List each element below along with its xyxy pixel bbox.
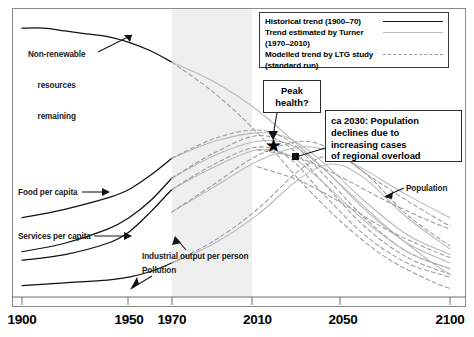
x-tick-label-1970: 1970 (157, 312, 186, 327)
callout-decline-line3: increasing cases (331, 139, 456, 151)
legend-row-turner-years: (1970–2010) (265, 38, 443, 49)
label-population: Population (406, 184, 447, 194)
legend-label-historical: Historical trend (1900–70) (265, 16, 361, 27)
label-nonrenewable-line1: Non-renewable (28, 50, 85, 60)
callout-peak-health-line2: health? (264, 97, 320, 109)
label-food-per-capita: Food per capita (18, 188, 77, 198)
x-tick-label-2100: 2100 (436, 312, 465, 327)
callout-decline-line2: declines due to (331, 127, 456, 139)
callout-peak-health-line1: Peak (264, 85, 320, 97)
peak-health-star-icon: ★ (265, 135, 282, 156)
label-nonrenewable-line3: remaining (28, 112, 85, 122)
legend-label-ltg: Modelled trend by LTG study (265, 49, 373, 60)
legend: Historical trend (1900–70) Trend estimat… (259, 12, 449, 68)
arrowhead-food (102, 188, 110, 196)
legend-row-ltg: Modelled trend by LTG study (265, 49, 443, 60)
x-tick-label-1900: 1900 (8, 312, 37, 327)
callout-decline-line1: ca 2030: Population (331, 115, 456, 127)
callout-peak-health: Peak health? (263, 80, 321, 113)
x-tick-label-1950: 1950 (115, 312, 144, 327)
label-nonrenewable-line2: resources (28, 81, 85, 91)
label-nonrenewable-resources: Non-renewable resources remaining (28, 30, 85, 142)
marker-decline-square (292, 153, 299, 160)
arrowhead-pollution (130, 277, 139, 290)
callout-population-decline: ca 2030: Population declines due to incr… (325, 110, 462, 162)
chart-root: ★ Historical trend (1900–70) Trend estim… (0, 0, 474, 337)
legend-row-ltg-run: (standard run) (265, 60, 443, 71)
legend-swatch-ltg (383, 54, 443, 55)
series-population-right-branch-b (257, 167, 450, 258)
legend-row-historical: Historical trend (1900–70) (265, 16, 443, 27)
legend-label-turner: Trend estimated by Turner (265, 27, 364, 38)
x-axis (12, 297, 466, 305)
label-services-per-capita: Services per capita (18, 232, 91, 242)
legend-row-turner: Trend estimated by Turner (265, 27, 443, 38)
legend-label-turner-years: (1970–2010) (265, 38, 310, 49)
x-tick-label-2050: 2050 (329, 312, 358, 327)
series-industrial-output-per-person-historical (22, 189, 172, 260)
legend-swatch-turner (383, 32, 443, 33)
legend-swatch-historical (383, 21, 443, 22)
callout-decline-line4: of regional overload (331, 150, 456, 162)
label-industrial-output: Industrial output per person (142, 252, 248, 262)
label-pollution: Pollution (142, 266, 176, 276)
x-tick-label-2010: 2010 (243, 312, 272, 327)
legend-label-ltg-run: (standard run) (265, 60, 318, 71)
